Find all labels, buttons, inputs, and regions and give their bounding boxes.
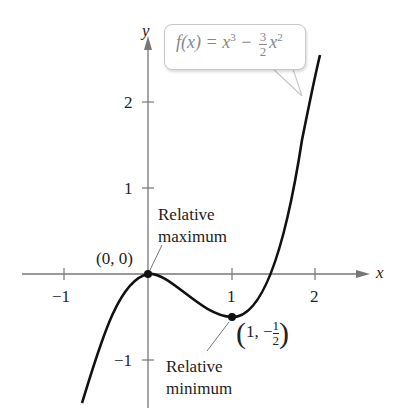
x-axis-arrow-icon bbox=[356, 270, 370, 278]
min-label-line2: minimum bbox=[166, 380, 232, 397]
min-point-coordinate: (1, −12) bbox=[236, 318, 289, 348]
equation-minus: − bbox=[236, 32, 257, 52]
y-axis-label: y bbox=[142, 22, 150, 39]
max-leader-line bbox=[150, 245, 162, 270]
x-tick-label-neg1: −1 bbox=[52, 288, 70, 305]
equation-exponent-2: 2 bbox=[277, 31, 283, 43]
max-label-line2: maximum bbox=[158, 228, 227, 245]
min-label-line1: Relative bbox=[166, 358, 223, 375]
y-tick-label-neg1: −1 bbox=[114, 352, 132, 369]
relative-min-point bbox=[228, 313, 236, 321]
callout-pointer bbox=[270, 66, 302, 96]
x-axis-label: x bbox=[376, 264, 384, 281]
close-paren: ) bbox=[279, 316, 289, 349]
max-point-coordinate: (0, 0) bbox=[96, 250, 133, 267]
y-tick-label-2: 2 bbox=[124, 94, 133, 111]
fraction-numerator: 3 bbox=[259, 30, 268, 45]
max-label-line1: Relative bbox=[158, 206, 215, 223]
min-coord-prefix: 1, − bbox=[246, 322, 273, 341]
x-tick-label-1: 1 bbox=[227, 288, 236, 305]
equation-prefix: f(x) = x bbox=[176, 32, 230, 52]
equation-fraction: 32 bbox=[259, 30, 268, 58]
y-tick-label-1: 1 bbox=[124, 180, 133, 197]
function-equation: f(x) = x3 − 32x2 bbox=[176, 30, 283, 58]
relative-max-point bbox=[144, 270, 152, 278]
open-paren: ( bbox=[236, 316, 246, 349]
min-leader-line bbox=[207, 322, 229, 351]
fraction-denominator: 2 bbox=[259, 45, 268, 59]
x-tick-label-2: 2 bbox=[310, 288, 319, 305]
